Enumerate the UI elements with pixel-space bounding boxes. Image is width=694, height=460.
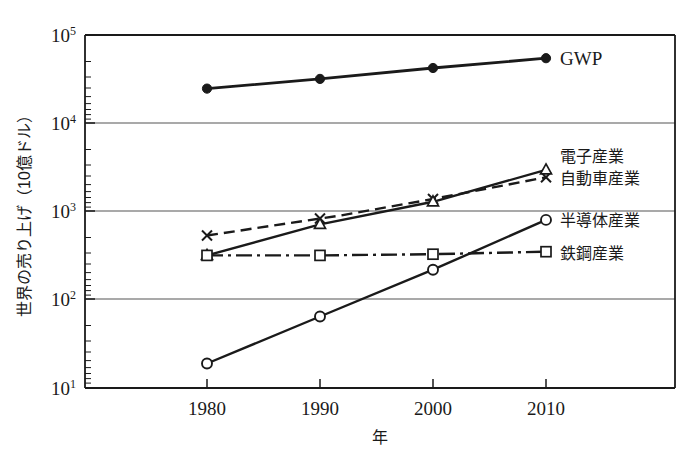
series-label-gwp: GWP (560, 48, 602, 69)
xtick-label-2010: 2010 (527, 398, 565, 419)
series-gwp-marker (541, 54, 550, 63)
series-label-semiconductor: 半導体産業 (560, 211, 640, 229)
series-label-steel: 鉄鋼産業 (560, 245, 624, 262)
series-gwp-marker (315, 74, 324, 83)
xtick-label-1990: 1990 (301, 398, 339, 419)
line-chart: 105 104 103 102 101 1980 1990 2000 2010 … (0, 0, 694, 460)
y-axis-title: 世界の売り上げ（10億ドル） (16, 107, 33, 317)
xtick-label-1980: 1980 (188, 398, 226, 419)
chart-figure: 105 104 103 102 101 1980 1990 2000 2010 … (0, 0, 694, 460)
x-axis-title: 年 (372, 429, 388, 446)
series-label-electronics: 電子産業 (560, 148, 624, 165)
series-label-automotive: 自動車産業 (560, 170, 640, 187)
series-gwp-marker (202, 84, 211, 93)
xtick-label-2000: 2000 (414, 398, 452, 419)
chart-background (0, 0, 694, 460)
series-gwp-marker (428, 63, 437, 72)
